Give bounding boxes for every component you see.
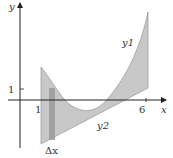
y-tick-label-1: 1 [8,84,14,95]
delta-x-label: Δx [45,145,58,156]
x-tick-label-1: 1 [35,104,41,115]
x-tick-label-6: 6 [139,104,145,115]
shaded-region [41,12,148,144]
delta-x-strip [49,88,55,140]
x-axis-label: x [161,104,167,115]
area-between-curves-diagram: y x 1 1 6 y1 y2 Δx [0,0,173,158]
curve-y1-label: y1 [121,37,134,48]
curve-y2-label: y2 [96,120,109,131]
y-axis-label: y [8,1,15,12]
